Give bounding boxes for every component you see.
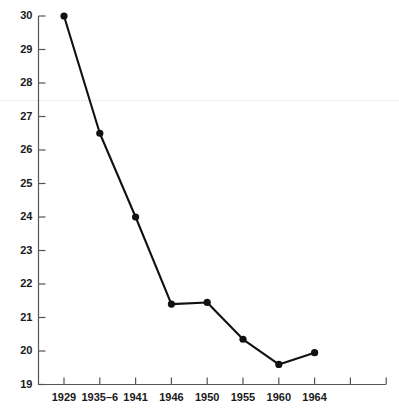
x-axis-tick-label: 1950 — [195, 391, 219, 403]
y-axis-tick-label: 27 — [20, 110, 32, 122]
x-axis-tick-label: 1941 — [123, 391, 147, 403]
data-point — [239, 336, 246, 343]
y-axis-tick-label: 19 — [20, 378, 32, 390]
y-axis-tick-label: 30 — [20, 9, 32, 21]
x-axis-tick-label: 1929 — [52, 391, 76, 403]
data-point — [96, 130, 103, 137]
y-axis-tick-label: 26 — [20, 143, 32, 155]
y-axis-tick-label: 24 — [20, 210, 33, 222]
x-axis-tick-label: 1946 — [159, 391, 183, 403]
chart-background — [0, 0, 399, 416]
y-axis-tick-label: 21 — [20, 311, 32, 323]
x-axis-tick-label: 1935–6 — [81, 391, 118, 403]
data-point — [204, 299, 211, 306]
x-axis-tick-label: 1960 — [267, 391, 291, 403]
y-axis-tick-label: 28 — [20, 76, 32, 88]
y-axis-tick-label: 23 — [20, 244, 32, 256]
line-chart: 192021222324252627282930 19291935–619411… — [0, 0, 399, 416]
y-axis-tick-label: 29 — [20, 43, 32, 55]
y-axis-tick-label: 25 — [20, 177, 32, 189]
x-axis-tick-label: 1955 — [231, 391, 255, 403]
data-point — [132, 213, 139, 220]
data-point — [60, 12, 67, 19]
chart-canvas: 192021222324252627282930 19291935–619411… — [0, 0, 399, 416]
y-axis-tick-label: 22 — [20, 277, 32, 289]
y-axis-tick-label: 20 — [20, 344, 32, 356]
data-point — [168, 301, 175, 308]
data-point — [311, 349, 318, 356]
x-axis-tick-label: 1964 — [302, 391, 327, 403]
data-point — [275, 361, 282, 368]
